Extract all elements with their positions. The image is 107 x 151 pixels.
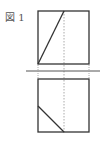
projection-diagram <box>0 0 107 151</box>
top-diagonal <box>38 11 64 64</box>
bottom-diagonal <box>38 106 64 132</box>
